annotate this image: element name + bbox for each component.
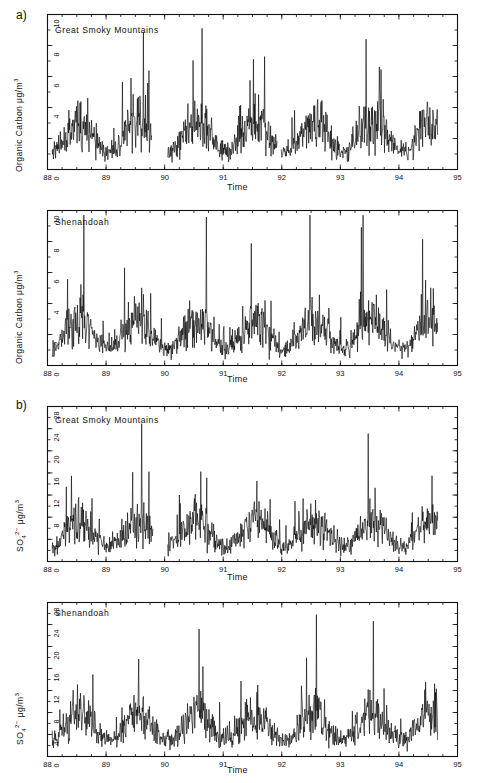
data-series [52, 28, 437, 162]
x-tick-label: 95 [447, 173, 469, 182]
y-tick-label: 4 [51, 108, 60, 124]
x-tick-label: 90 [154, 369, 176, 378]
x-axis-label: Time [227, 182, 248, 192]
y-axis-units: μg/m [15, 696, 25, 717]
x-tick-label: 91 [212, 173, 234, 182]
y-axis-units-exp: 3 [12, 270, 19, 274]
y-axis-label: SO42− μg/m3 [13, 693, 27, 745]
y-axis-units-exp: 3 [13, 500, 20, 504]
panel-b-great-smoky-mountains: b) Great Smoky Mountains SO42− μg/m3 Tim… [0, 392, 482, 588]
panel-a-shenandoah: Shenandoah Organic Carbon μg/m3 Time 024… [0, 196, 482, 392]
y-axis-units: μg/m [14, 274, 24, 295]
y-axis-label-text: SO [15, 539, 25, 552]
y-tick-label: 8 [51, 242, 60, 258]
x-tick-label: 90 [154, 565, 176, 574]
x-tick-label: 92 [271, 369, 293, 378]
y-axis-label-text: Organic Carbon [14, 298, 24, 364]
x-tick-label: 91 [212, 565, 234, 574]
panel-a-great-smoky-mountains: a) Great Smoky Mountains Organic Carbon … [0, 0, 482, 196]
y-axis-label-text: Organic Carbon [14, 106, 24, 172]
y-tick-label: 28 [51, 407, 60, 423]
y-tick-label: 28 [51, 603, 60, 619]
y-tick-label: 10 [51, 211, 60, 227]
data-series [52, 215, 437, 360]
x-tick-label: 93 [329, 173, 351, 182]
y-axis-label: Organic Carbon μg/m3 [12, 270, 24, 364]
x-tick-label: 95 [447, 565, 469, 574]
y-tick-label: 24 [51, 625, 60, 641]
y-tick-label: 4 [51, 540, 60, 556]
y-tick-label: 2 [51, 335, 60, 351]
y-tick-label: 2 [51, 139, 60, 155]
y-tick-label: 24 [51, 429, 60, 445]
y-axis-label-text: SO [15, 732, 25, 745]
x-tick-label: 91 [212, 760, 234, 769]
panel-label-a: a) [16, 8, 27, 22]
plot-title: Shenandoah [55, 217, 109, 227]
x-tick-label: 90 [154, 173, 176, 182]
x-tick-label: 89 [95, 369, 117, 378]
x-tick-label: 95 [447, 760, 469, 769]
x-tick-label: 93 [329, 565, 351, 574]
data-series [52, 615, 437, 752]
y-tick-label: 10 [51, 15, 60, 31]
y-tick-label: 4 [51, 735, 60, 751]
y-tick-label: 16 [51, 669, 60, 685]
plot-title: Shenandoah [55, 608, 109, 618]
panel-label-b: b) [16, 398, 27, 412]
x-tick-label: 92 [271, 760, 293, 769]
x-tick-label: 88 [37, 565, 59, 574]
y-axis-units-exp: 3 [12, 78, 19, 82]
x-tick-label: 89 [95, 760, 117, 769]
data-series [52, 424, 437, 557]
y-axis-units: μg/m [14, 82, 24, 103]
y-axis-label-charge: 2− [13, 720, 20, 728]
x-tick-label: 91 [212, 369, 234, 378]
x-tick-label: 89 [95, 173, 117, 182]
y-tick-label: 8 [51, 518, 60, 534]
x-tick-label: 94 [388, 369, 410, 378]
panel-b-shenandoah: Shenandoah SO42− μg/m3 Time 048121620242… [0, 588, 482, 783]
y-tick-label: 12 [51, 691, 60, 707]
x-tick-label: 88 [37, 173, 59, 182]
x-tick-label: 88 [37, 369, 59, 378]
plot-title: Great Smoky Mountains [55, 415, 159, 425]
x-tick-label: 93 [329, 760, 351, 769]
plot-title: Great Smoky Mountains [55, 25, 159, 35]
x-tick-label: 92 [271, 565, 293, 574]
y-tick-label: 16 [51, 473, 60, 489]
x-tick-label: 94 [388, 760, 410, 769]
y-axis-label: Organic Carbon μg/m3 [12, 78, 24, 172]
x-tick-label: 94 [388, 565, 410, 574]
y-tick-label: 20 [51, 647, 60, 663]
y-tick-label: 4 [51, 304, 60, 320]
y-tick-label: 8 [51, 46, 60, 62]
x-tick-label: 88 [37, 760, 59, 769]
x-tick-label: 89 [95, 565, 117, 574]
y-axis-label-sub: 4 [20, 728, 27, 732]
y-axis-label-charge: 2− [13, 527, 20, 535]
y-tick-label: 6 [51, 77, 60, 93]
y-axis-units-exp: 3 [13, 693, 20, 697]
x-tick-label: 95 [447, 369, 469, 378]
x-tick-label: 90 [154, 760, 176, 769]
x-tick-label: 94 [388, 173, 410, 182]
y-axis-label: SO42− μg/m3 [13, 500, 27, 552]
y-tick-label: 8 [51, 713, 60, 729]
y-axis-label-sub: 4 [20, 535, 27, 539]
y-tick-label: 12 [51, 496, 60, 512]
y-tick-label: 20 [51, 451, 60, 467]
y-tick-label: 6 [51, 273, 60, 289]
figure-timeseries-panels: a) Great Smoky Mountains Organic Carbon … [0, 0, 482, 783]
y-axis-units: μg/m [15, 503, 25, 524]
x-axis-label: Time [227, 572, 248, 582]
x-tick-label: 93 [329, 369, 351, 378]
x-tick-label: 92 [271, 173, 293, 182]
